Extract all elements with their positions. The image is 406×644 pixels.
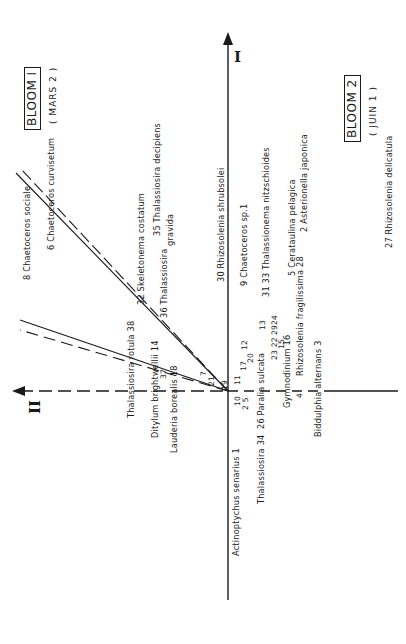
species-label: Biddulphia alternans 3 [314,340,322,437]
species-label: Actinoptychus senarius 1 [232,448,240,556]
species-label: 37 [160,369,168,379]
species-label: Lauderia borealis 18 [170,365,178,453]
species-label: Thalassiosira rotula 38 [127,321,135,418]
axis-2-arrow-icon [12,386,25,396]
species-label: 20 [247,353,255,363]
species-label: 27 Rhizosolenia delicatula [385,136,393,248]
species-label: 11 [234,375,242,385]
axis-1-arrow-icon [223,32,233,45]
species-label: 6 Chaetoceros curvisetum [47,138,55,250]
bloom-2-date: ( JUIN 1 ) [368,86,378,136]
species-label: 2 Asterionella japonica [300,134,308,232]
bloom-2-title: BLOOM 2 [344,75,361,142]
species-label: 35 Thalassiosira decipiens [153,123,161,236]
species-label: 30 Rhizosolenia shrubsolei [217,168,225,282]
species-label: Thalassiosira 34 [257,435,265,504]
species-label: 32 Skeletonema costatum [137,193,145,305]
species-label: 36 Thalassiosira [160,249,168,318]
species-label: 4 [296,393,304,398]
species-label: 31 33 Thalassionema nitzschioides [262,147,270,297]
bloom-2-vector-solid [20,320,228,391]
axis-1-label: I [234,50,241,65]
species-label: 9 Chaetoceros sp.1 [240,204,248,286]
species-label: 15 [278,339,286,349]
bloom-2-vector-dashed [20,330,228,391]
species-label: 26 Paralia sulcata [257,353,265,429]
bloom-1-title: BLOOM I [24,67,41,130]
species-label: Rhizosolenia fragilissima 28 [296,256,304,376]
species-label: 21 [208,376,216,386]
species-label: Ditylum brightwellii 14 [151,340,159,438]
species-label: 13 [259,320,267,330]
species-label: gravida [166,214,174,246]
species-label: 8 Chaetoceros sociale [23,186,31,280]
bloom-1-date: ( MARS 2 ) [48,67,58,124]
species-label: 19 [221,380,229,390]
species-label: 2924 [271,315,279,335]
species-label: 12 [241,340,249,350]
axis-2-label: II [28,400,43,414]
species-label: 2 5 [242,397,250,410]
factor-diagram: I II BLOOM I ( MARS 2 ) BLOOM 2 ( JUIN 1… [0,0,406,644]
